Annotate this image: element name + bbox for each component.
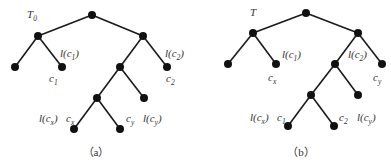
tree-a: T0l(c1)c1l(c2)c2l(cx)cxcyl(cy)（a） bbox=[11, 8, 184, 158]
tree-node bbox=[93, 94, 101, 102]
node-label-l-c2: l(c2) bbox=[165, 47, 184, 62]
tree-b: Tl(c1)cxl(c2)cyl(cx)c1c2l(cy)（b） bbox=[224, 6, 386, 158]
figure-caption-a: （a） bbox=[83, 146, 110, 158]
node-label-c1: c1 bbox=[277, 111, 286, 126]
tree-node bbox=[378, 60, 386, 68]
tree-node bbox=[224, 60, 232, 68]
tree-node bbox=[272, 60, 280, 68]
tree-diagram: T0l(c1)c1l(c2)c2l(cx)cxcyl(cy)（a）Tl(c1)c… bbox=[0, 0, 391, 167]
tree-edge bbox=[253, 33, 276, 64]
node-label-l-c2: l(c2) bbox=[348, 48, 367, 63]
node-label-cx: cx bbox=[268, 71, 277, 86]
tree-node bbox=[58, 63, 66, 71]
tree-edge bbox=[335, 64, 358, 95]
tree-edge bbox=[253, 13, 306, 33]
tree-node bbox=[88, 11, 96, 19]
tree-node bbox=[163, 63, 171, 71]
node-label-l-c1: l(c1) bbox=[282, 48, 301, 63]
tree-edge bbox=[97, 67, 120, 98]
tree-node bbox=[249, 29, 257, 37]
tree-node bbox=[34, 32, 42, 40]
tree-edge bbox=[306, 13, 358, 33]
tree-edge bbox=[143, 36, 167, 67]
tree-node bbox=[354, 91, 362, 99]
figure-caption-b: （b） bbox=[287, 146, 315, 158]
node-label-cy: cy bbox=[126, 112, 135, 127]
tree-node bbox=[307, 91, 315, 99]
tree-node bbox=[331, 60, 339, 68]
node-label-l-cy: l(cy) bbox=[357, 111, 376, 126]
tree-node bbox=[116, 125, 124, 133]
tree-title: T bbox=[250, 6, 257, 18]
node-label-l-cx: l(cx) bbox=[39, 112, 58, 127]
tree-edge bbox=[120, 36, 143, 67]
tree-node bbox=[139, 32, 147, 40]
tree-edge bbox=[288, 95, 311, 126]
tree-edge bbox=[120, 67, 144, 98]
tree-node bbox=[11, 63, 19, 71]
node-label-c2: c2 bbox=[339, 111, 348, 126]
tree-edge bbox=[38, 36, 62, 67]
tree-edge bbox=[97, 98, 120, 129]
tree-node bbox=[330, 122, 338, 130]
tree-edge bbox=[311, 95, 334, 126]
tree-node bbox=[302, 9, 310, 17]
tree-node bbox=[354, 29, 362, 37]
tree-edge bbox=[38, 15, 92, 36]
node-label-l-c1: l(c1) bbox=[60, 47, 79, 62]
tree-edge bbox=[74, 98, 97, 129]
tree-node bbox=[140, 94, 148, 102]
node-label-l-cx: l(cx) bbox=[250, 111, 269, 126]
tree-edge bbox=[15, 36, 38, 67]
node-label-c1: c1 bbox=[49, 72, 58, 87]
tree-node bbox=[116, 63, 124, 71]
node-label-cx: cx bbox=[66, 112, 75, 127]
node-label-cy: cy bbox=[373, 71, 382, 86]
tree-edge bbox=[92, 15, 143, 36]
tree-title: T0 bbox=[27, 8, 37, 23]
node-label-c2: c2 bbox=[166, 72, 175, 87]
tree-edge bbox=[228, 33, 253, 64]
tree-edge bbox=[311, 64, 335, 95]
node-label-l-cy: l(cy) bbox=[143, 112, 162, 127]
